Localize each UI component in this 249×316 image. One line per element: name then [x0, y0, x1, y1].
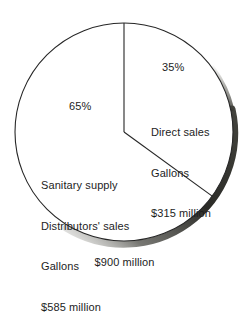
direct-sales-label-line-1: Direct sales	[151, 126, 211, 140]
direct-sales-amount: $315 million	[151, 207, 211, 221]
sanitary-supply-label-block: Sanitary supply Distributors' sales Gall…	[41, 152, 129, 316]
direct-sales-label-block: Direct sales Gallons $315 million	[151, 99, 211, 248]
direct-sales-label-line-2: Gallons	[151, 167, 211, 181]
direct-sales-percent-label: 35%	[162, 61, 184, 75]
sanitary-supply-amount: $585 million	[41, 301, 129, 315]
sanitary-supply-label-line-2: Distributors' sales	[41, 220, 129, 234]
sanitary-supply-percent-label: 65%	[69, 100, 91, 114]
pie-total-caption: $900 million	[0, 256, 249, 270]
sanitary-supply-label-line-1: Sanitary supply	[41, 179, 129, 193]
